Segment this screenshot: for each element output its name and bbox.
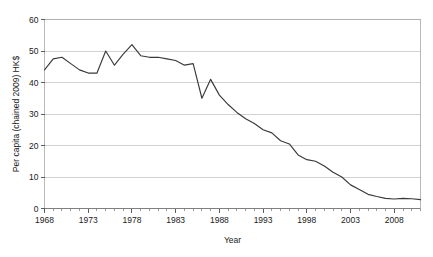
x-axis-title: Year [224, 235, 241, 245]
series-line-per-capita [45, 45, 421, 200]
y-tick-label-0: 0 [34, 204, 39, 214]
x-axis-tick-labels: 196819731978198319881993199820032008 [35, 215, 404, 225]
y-tick-label-50: 50 [29, 46, 39, 56]
x-axis-ticks [45, 209, 421, 213]
y-axis-tick-labels: 0102030405060 [29, 15, 39, 214]
y-tick-label-10: 10 [29, 172, 39, 182]
y-tick-label-60: 60 [29, 15, 39, 25]
x-tick-label-1988: 1988 [210, 215, 229, 225]
x-tick-label-1973: 1973 [79, 215, 98, 225]
x-tick-label-1998: 1998 [297, 215, 316, 225]
y-axis-ticks [41, 20, 45, 209]
chart-canvas: 0102030405060 19681973197819831988199319… [0, 0, 433, 257]
y-tick-label-40: 40 [29, 78, 39, 88]
y-axis-title: Per capita (chained 2009) HK$ [11, 56, 21, 173]
x-tick-label-1968: 1968 [35, 215, 54, 225]
chart-figure: 0102030405060 19681973197819831988199319… [0, 0, 433, 257]
y-tick-label-30: 30 [29, 109, 39, 119]
data-series [45, 45, 421, 200]
y-tick-label-20: 20 [29, 141, 39, 151]
x-tick-label-2008: 2008 [385, 215, 404, 225]
grid-lines [45, 20, 421, 209]
x-tick-label-2003: 2003 [341, 215, 360, 225]
x-tick-label-1978: 1978 [122, 215, 141, 225]
x-tick-label-1983: 1983 [166, 215, 185, 225]
x-tick-label-1993: 1993 [254, 215, 273, 225]
